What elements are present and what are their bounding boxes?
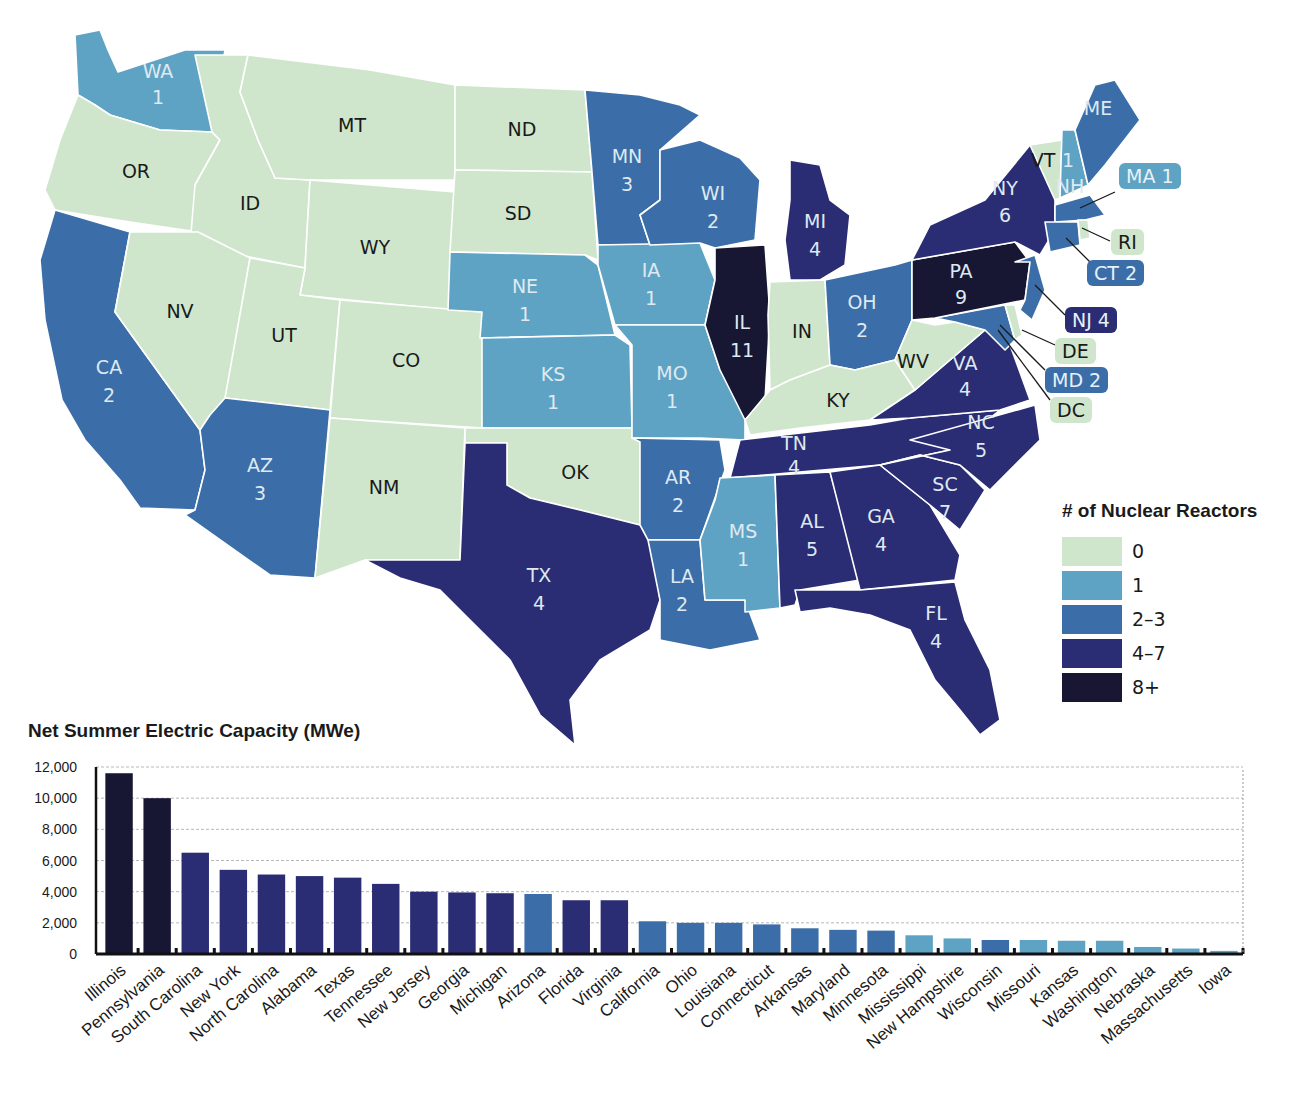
callout-RI: RI	[1111, 229, 1144, 255]
label-VA: VA	[953, 352, 978, 374]
bar-louisiana	[715, 923, 742, 954]
legend-item-1: 1	[1062, 568, 1257, 602]
y-tick-label: 2,000	[42, 915, 77, 931]
bar-illinois	[105, 773, 132, 954]
legend-swatch	[1062, 571, 1122, 600]
label-AZ: AZ	[247, 454, 273, 476]
label-FL: FL	[925, 602, 947, 624]
legend-label: 4–7	[1132, 642, 1166, 664]
callout-MD: MD 2	[1045, 367, 1108, 393]
x-axis-labels: IllinoisPennsylvaniaSouth CarolinaNew Yo…	[78, 960, 1235, 1053]
label-OR: OR	[122, 160, 150, 182]
label-CA-count: 2	[103, 384, 115, 406]
label-OK: OK	[561, 461, 589, 483]
bar-kansas	[1058, 941, 1085, 954]
legend-item-0: 0	[1062, 534, 1257, 568]
capacity-bar-chart: 02,0004,0006,0008,00010,00012,000 Illino…	[0, 745, 1297, 1112]
state-MA[interactable]	[1055, 195, 1105, 222]
bar-new-jersey	[410, 892, 437, 954]
label-NV: NV	[166, 300, 193, 322]
label-KY: KY	[826, 389, 850, 411]
chart-bars	[105, 773, 1244, 954]
legend-swatch	[1062, 537, 1122, 566]
legend-item-4: 8+	[1062, 670, 1257, 704]
legend-label: 1	[1132, 574, 1144, 596]
legend-swatch	[1062, 673, 1122, 702]
label-UT: UT	[271, 324, 297, 346]
label-OH-count: 2	[856, 319, 868, 341]
y-tick-label: 10,000	[34, 790, 77, 806]
label-MO: MO	[656, 362, 687, 384]
legend-swatch	[1062, 605, 1122, 634]
y-tick-label: 6,000	[42, 853, 77, 869]
callout-NJ: NJ 4	[1065, 307, 1117, 333]
bar-pennsylvania	[143, 798, 170, 954]
label-AZ-count: 3	[254, 482, 266, 504]
label-ID: ID	[240, 192, 260, 214]
label-SC: SC	[932, 473, 957, 495]
callout-DC: DC	[1050, 397, 1092, 423]
bar-arizona	[524, 894, 551, 954]
bar-virginia	[601, 900, 628, 954]
bar-alabama	[296, 876, 323, 954]
label-ND: ND	[508, 118, 537, 140]
label-MS-count: 1	[737, 548, 749, 570]
label-WV: WV	[897, 350, 929, 372]
label-WI: WI	[701, 182, 725, 204]
label-TN: TN	[780, 432, 807, 454]
bar-missouri	[1020, 940, 1047, 954]
label-TX-count: 4	[533, 592, 545, 614]
legend-label: 0	[1132, 540, 1144, 562]
label-KS-count: 1	[547, 391, 559, 413]
bar-ohio	[677, 923, 704, 954]
label-LA-count: 2	[676, 593, 688, 615]
bar-arkansas	[791, 928, 818, 954]
bar-maryland	[829, 930, 856, 954]
label-AR: AR	[665, 466, 691, 488]
label-NM: NM	[369, 476, 400, 498]
legend-item-3: 4–7	[1062, 636, 1257, 670]
state-FL[interactable]	[795, 582, 1000, 735]
label-PA-count: 9	[955, 286, 967, 308]
label-MI: MI	[804, 210, 826, 232]
legend-label: 2–3	[1132, 608, 1166, 630]
bar-texas	[334, 878, 361, 954]
label-GA: GA	[867, 505, 895, 527]
bar-new-hampshire	[944, 938, 971, 954]
label-MN: MN	[612, 145, 643, 167]
label-WY: WY	[360, 236, 391, 258]
legend-swatch	[1062, 639, 1122, 668]
bar-wisconsin	[982, 940, 1009, 954]
bar-michigan	[486, 893, 513, 954]
bar-georgia	[448, 892, 475, 954]
bar-mississippi	[905, 935, 932, 954]
label-SC-count: 7	[939, 501, 951, 523]
label-NE: NE	[512, 275, 538, 297]
label-KS: KS	[541, 363, 566, 385]
state-RI[interactable]	[1078, 220, 1090, 240]
bar-florida	[563, 900, 590, 954]
bar-north-carolina	[258, 875, 285, 954]
label-NE-count: 1	[519, 303, 531, 325]
label-WA: WA	[143, 60, 174, 82]
state-NM[interactable]	[315, 418, 465, 578]
label-AR-count: 2	[672, 494, 684, 516]
label-WA-count: 1	[152, 86, 164, 108]
label-ME: ME	[1084, 97, 1112, 119]
legend-label: 8+	[1132, 676, 1160, 698]
label-PA: PA	[949, 260, 972, 282]
label-IA-count: 1	[645, 287, 657, 309]
label-WI-count: 2	[707, 210, 719, 232]
label-SD: SD	[505, 202, 532, 224]
label-MO-count: 1	[666, 390, 678, 412]
state-IA[interactable]	[598, 243, 715, 325]
label-AL-count: 5	[806, 538, 818, 560]
callout-MA: MA 1	[1119, 163, 1181, 189]
x-tick-label: Iowa	[1195, 960, 1235, 998]
label-NC: NC	[967, 411, 994, 433]
bar-connecticut	[753, 924, 780, 954]
callout-CT: CT 2	[1087, 260, 1144, 286]
label-LA: LA	[670, 565, 694, 587]
map-legend: # of Nuclear Reactors 0 1 2–3 4–7 8+	[1062, 500, 1257, 704]
y-tick-label: 4,000	[42, 884, 77, 900]
